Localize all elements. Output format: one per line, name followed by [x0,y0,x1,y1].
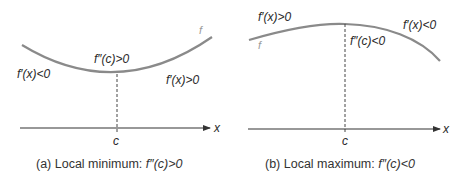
caption-b: (b) Local maximum: f″(c)<0 [265,157,415,171]
function-label: f [258,39,262,51]
left-derivative-label: f′(x)>0 [258,10,292,24]
diagram-canvas: f x c f″(c)>0 f′(x)<0 f′(x)>0 (a) Local … [0,0,466,175]
point-label-c: c [342,134,348,148]
left-derivative-label: f′(x)<0 [17,67,51,81]
panel-local-minimum: f x c f″(c)>0 f′(x)<0 f′(x)>0 (a) Local … [17,24,221,171]
panel-local-maximum: f x c f′(x)>0 f″(c)<0 f′(x)<0 (b) Local … [248,10,450,171]
right-derivative-label: f′(x)>0 [166,73,200,87]
caption-a: (a) Local minimum: f″(c)>0 [36,157,183,171]
point-label-c: c [113,134,119,148]
axis-label-x: x [442,122,450,136]
function-label: f [199,24,203,36]
axis-label-x: x [213,121,221,135]
second-derivative-label: f″(c)<0 [350,34,386,48]
right-derivative-label: f′(x)<0 [403,18,437,32]
second-derivative-label: f″(c)>0 [94,52,130,66]
